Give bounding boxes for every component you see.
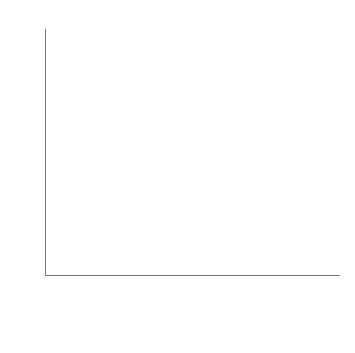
y-axis (45, 29, 46, 275)
x-axis (45, 275, 340, 276)
